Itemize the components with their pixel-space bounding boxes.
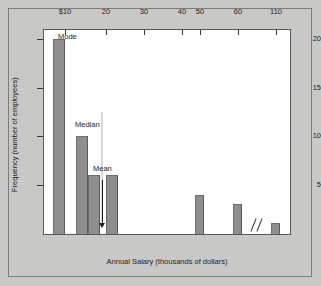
x-tick-mark-30: [144, 30, 145, 35]
bar-bin-110: [271, 223, 280, 234]
statistics-histogram-figure: Frequency (number of employees) 20 15 10…: [0, 0, 321, 286]
mean-arrow-head: [99, 223, 105, 228]
bar-bin-50: [195, 195, 204, 234]
x-tick-label-10: $10: [50, 7, 80, 16]
x-tick-label-50: 50: [185, 7, 215, 16]
annotation-median: Median: [75, 120, 100, 129]
annotation-mode: Mode: [58, 32, 77, 41]
x-tick-label-60: 60: [223, 7, 253, 16]
y-tick-label-15: 15: [295, 84, 321, 92]
axis-break-slash-second: [256, 218, 262, 231]
bar-bin-5-10: [53, 39, 65, 234]
bar-bin-10-15: [76, 136, 88, 234]
x-tick-mark-40: [182, 30, 183, 35]
y-tick-label-20: 20: [295, 35, 321, 43]
x-tick-label-110: 110: [261, 7, 291, 16]
plot-area: Mode Median Mean: [43, 29, 291, 235]
x-tick-mark-20: [106, 30, 107, 35]
plot-inner: Mode Median Mean: [44, 30, 290, 234]
x-tick-mark-60: [238, 30, 239, 35]
x-tick-mark-10: [65, 30, 66, 35]
annotation-mean: Mean: [93, 164, 112, 173]
x-axis-title: Annual Salary (thousands of dollars): [43, 257, 291, 266]
x-tick-label-30: 30: [129, 7, 159, 16]
x-tick-mark-110: [276, 30, 277, 35]
y-tick-label-5: 5: [295, 181, 321, 189]
x-tick-mark-50: [200, 30, 201, 35]
mean-arrow-stem: [102, 180, 103, 225]
y-tick-label-10: 10: [295, 132, 321, 140]
bar-bin-20-25: [106, 175, 118, 234]
axis-break-slash-first: [250, 218, 256, 231]
y-axis-title: Frequency (number of employees): [10, 50, 24, 220]
bar-bin-60: [233, 204, 242, 234]
x-tick-label-20: 20: [91, 7, 121, 16]
